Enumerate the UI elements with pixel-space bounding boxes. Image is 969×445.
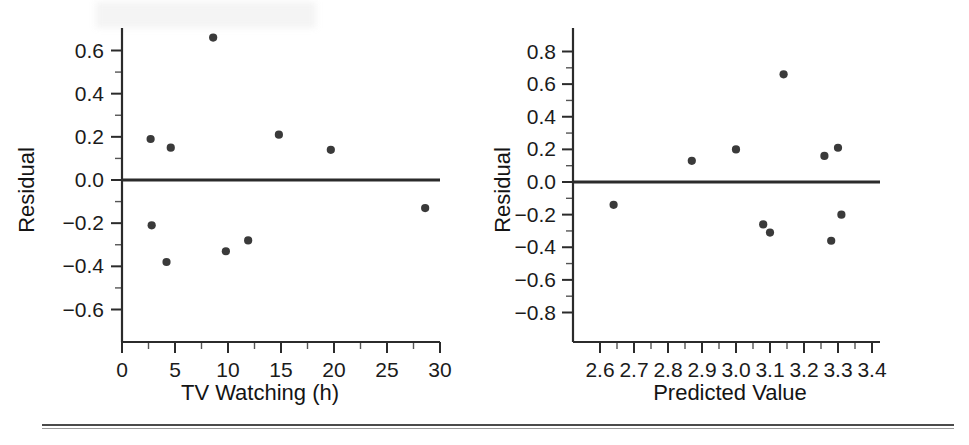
x-tick-labels-left: 051015202530 <box>116 358 452 381</box>
x-tick-label: 0 <box>116 358 128 381</box>
data-point <box>327 146 335 154</box>
data-point <box>834 144 842 152</box>
data-points-left <box>147 33 430 266</box>
data-point <box>837 211 845 219</box>
data-point <box>148 221 156 229</box>
data-point <box>162 258 170 266</box>
y-tick-label: 0.4 <box>75 82 105 105</box>
y-tick-label: 0.6 <box>527 72 556 95</box>
y-tick-label: 0.6 <box>75 39 104 62</box>
x-tick-label: 3.4 <box>857 358 887 381</box>
y-tick-label: −0.8 <box>515 301 556 324</box>
x-tick-marks-right <box>600 342 872 353</box>
y-tick-label: −0.6 <box>515 268 556 291</box>
x-tick-label: 30 <box>428 358 451 381</box>
data-point <box>167 144 175 152</box>
data-point <box>827 237 835 245</box>
y-axis-label-right: Residual <box>490 147 515 233</box>
data-points-right <box>610 70 846 245</box>
data-point <box>244 236 252 244</box>
data-point <box>275 131 283 139</box>
x-tick-label: 3.1 <box>755 358 784 381</box>
data-point <box>688 157 696 165</box>
y-axis-label-text-right: Residual <box>490 147 515 233</box>
x-tick-label: 2.6 <box>585 358 614 381</box>
y-tick-label: −0.6 <box>63 298 104 321</box>
footer-divider-rule-shadow <box>42 428 954 429</box>
y-tick-label: 0.2 <box>75 125 104 148</box>
x-axis-label-left: TV Watching (h) <box>181 380 339 405</box>
x-tick-label: 20 <box>322 358 345 381</box>
x-tick-labels-right: 2.62.72.82.93.03.13.23.33.4 <box>585 358 887 381</box>
y-axis-label-text-left: Residual <box>14 147 39 233</box>
data-point <box>610 201 618 209</box>
y-tick-label: −0.2 <box>515 203 556 226</box>
chart-panel-residual-vs-tv-watching: Residual −0.6−0.4−0.20.00.20.40.6 051015… <box>0 0 490 420</box>
footer-divider-rule <box>42 424 954 426</box>
x-tick-label: 15 <box>269 358 292 381</box>
x-tick-label: 10 <box>216 358 239 381</box>
data-point <box>209 33 217 41</box>
x-axis-label-right: Predicted Value <box>653 380 807 405</box>
scatter-plot-tv-watching: Residual −0.6−0.4−0.20.00.20.40.6 051015… <box>0 0 490 420</box>
x-tick-marks-left <box>122 342 440 353</box>
chart-panel-residual-vs-predicted-value: Residual −0.8−0.6−0.4−0.20.00.20.40.60.8… <box>480 0 969 420</box>
data-point <box>820 152 828 160</box>
residual-plots-figure: Residual −0.6−0.4−0.20.00.20.40.6 051015… <box>0 0 969 445</box>
y-tick-label: −0.4 <box>63 254 105 277</box>
axis-lines-left <box>122 28 440 342</box>
y-tick-label: −0.2 <box>63 211 104 234</box>
x-tick-label: 3.2 <box>789 358 818 381</box>
data-point <box>222 247 230 255</box>
y-tick-labels-right: −0.8−0.6−0.4−0.20.00.20.40.60.8 <box>515 40 557 324</box>
y-tick-marks-right <box>562 52 573 313</box>
y-tick-label: 0.0 <box>527 170 556 193</box>
y-tick-marks-left <box>111 51 122 310</box>
x-tick-label: 3.0 <box>721 358 750 381</box>
y-tick-labels-left: −0.6−0.4−0.20.00.20.40.6 <box>63 39 105 321</box>
x-tick-label: 3.3 <box>823 358 852 381</box>
data-point <box>732 145 740 153</box>
x-tick-label: 5 <box>169 358 181 381</box>
data-point <box>766 228 774 236</box>
y-tick-label: −0.4 <box>515 235 557 258</box>
data-point <box>421 204 429 212</box>
y-tick-label: 0.2 <box>527 137 556 160</box>
data-point <box>147 135 155 143</box>
axis-lines-right <box>573 28 880 342</box>
y-tick-label: 0.0 <box>75 168 104 191</box>
data-point <box>759 220 767 228</box>
y-axis-label-left: Residual <box>14 147 39 233</box>
x-tick-label: 2.9 <box>687 358 716 381</box>
x-tick-label: 25 <box>375 358 398 381</box>
data-point <box>780 70 788 78</box>
x-tick-label: 2.8 <box>653 358 682 381</box>
y-tick-label: 0.4 <box>527 105 557 128</box>
scatter-plot-predicted-value: Residual −0.8−0.6−0.4−0.20.00.20.40.60.8… <box>480 0 969 420</box>
y-tick-label: 0.8 <box>527 40 556 63</box>
x-tick-label: 2.7 <box>619 358 648 381</box>
